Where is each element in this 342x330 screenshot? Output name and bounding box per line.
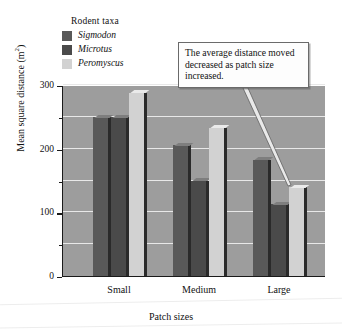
- legend-swatch-microtus: [62, 45, 72, 55]
- bar-face: [289, 187, 304, 276]
- y-tick-label: 200: [28, 144, 54, 154]
- x-axis-title: Patch sizes: [0, 311, 342, 322]
- bar-group-small: [93, 86, 147, 276]
- bar-side: [304, 187, 307, 276]
- legend-label-sigmodon: Sigmodon: [78, 31, 116, 41]
- legend-swatch-sigmodon: [62, 31, 72, 41]
- bar-face: [191, 181, 206, 277]
- legend-swatch-peromyscus: [62, 59, 72, 69]
- y-tick-label: 100: [28, 207, 54, 217]
- legend-label-microtus: Microtus: [78, 45, 112, 55]
- legend-item-peromyscus: Peromyscus: [62, 57, 124, 70]
- y-tick-label: 300: [28, 80, 54, 90]
- bar-large-peromyscus: [289, 187, 304, 276]
- bar-face: [253, 160, 268, 277]
- scan-artifact-line: [0, 298, 342, 306]
- bar-face: [173, 145, 188, 276]
- bar-large-sigmodon: [253, 160, 268, 277]
- bar-face: [209, 128, 224, 276]
- plot-area: [62, 86, 325, 277]
- x-tick-label-medium: Medium: [159, 284, 239, 295]
- bar-top: [175, 143, 193, 146]
- bar-group-large: [253, 86, 307, 276]
- y-tick-label: 0: [28, 271, 54, 281]
- legend-item-sigmodon: Sigmodon: [62, 29, 124, 42]
- bar-face: [111, 117, 126, 276]
- bar-group-medium: [173, 86, 227, 276]
- legend-label-peromyscus: Peromyscus: [78, 59, 124, 69]
- bar-small-sigmodon: [93, 117, 108, 276]
- y-axis-title: Mean square distance (m2): [13, 45, 25, 152]
- bar-medium-sigmodon: [173, 145, 188, 276]
- bar-medium-peromyscus: [209, 128, 224, 276]
- bar-top: [255, 157, 273, 160]
- bar-series-container: [63, 86, 325, 276]
- legend-item-microtus: Microtus: [62, 43, 124, 56]
- chart-figure: Rodent taxa Sigmodon Microtus Peromyscus…: [0, 0, 342, 330]
- y-tick-mark: [57, 277, 62, 278]
- bar-side: [224, 128, 227, 276]
- bar-medium-microtus: [191, 181, 206, 277]
- callout-annotation: The average distance moved decreased as …: [178, 42, 309, 88]
- legend-title: Rodent taxa: [71, 16, 124, 26]
- bar-face: [129, 93, 144, 276]
- bar-top: [291, 185, 309, 188]
- x-tick-label-small: Small: [79, 284, 159, 295]
- bar-face: [93, 117, 108, 276]
- chart-legend: Rodent taxa Sigmodon Microtus Peromyscus: [62, 16, 124, 71]
- bar-small-microtus: [111, 117, 126, 276]
- bar-side: [144, 93, 147, 276]
- bar-large-microtus: [271, 204, 286, 276]
- bar-face: [271, 204, 286, 276]
- scan-artifact-line: [0, 323, 342, 329]
- bar-small-peromyscus: [129, 93, 144, 276]
- x-tick-label-large: Large: [239, 284, 319, 295]
